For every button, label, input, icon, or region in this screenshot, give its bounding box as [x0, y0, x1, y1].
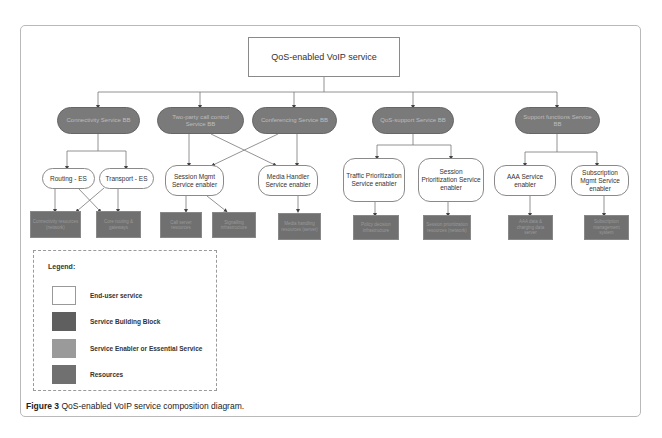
legend-swatch	[52, 339, 76, 358]
legend: Legend: End-user service Service Buildin…	[33, 250, 217, 391]
legend-item-end-user-service: End-user service	[52, 286, 142, 305]
figure-number: Figure 3	[26, 401, 59, 411]
enabler-session-mgmt: Session Mgmt Service enabler	[165, 165, 224, 196]
bb-qos-support: QoS-support Service BB	[372, 107, 454, 134]
resource-box: Subscription management system	[584, 215, 629, 240]
resource-box: Core routing & gateways	[96, 211, 141, 238]
legend-swatch	[52, 312, 76, 331]
enabler-routing: Routing - ES	[42, 168, 95, 189]
root-service-box: QoS-enabled VoIP service	[248, 37, 400, 77]
enabler-media-handler: Media Handler Service enabler	[258, 165, 318, 196]
resource-box: Call server resources	[160, 212, 202, 238]
enabler-aaa: AAA Service enabler	[494, 165, 556, 196]
legend-swatch	[52, 286, 76, 305]
resource-box: Session prioritization resources (networ…	[423, 215, 471, 240]
caption-text: QoS-enabled VoIP service composition dia…	[59, 401, 244, 411]
resource-box: Signalling infrastructure	[212, 212, 256, 238]
enabler-session-prioritization: Session Prioritization Service enabler	[418, 158, 484, 202]
resource-box: Policy decision infrastructure	[353, 215, 399, 240]
bb-connectivity: Connectivity Service BB	[57, 107, 140, 134]
resource-box: Media handling resources (server)	[278, 213, 321, 240]
bb-two-party-call-control: Two-party call control Service BB	[157, 107, 244, 134]
bb-conferencing: Conferencing Service BB	[252, 107, 337, 134]
legend-item-service-building-block: Service Building Block	[52, 312, 160, 331]
resource-box: AAA data & charging data server	[508, 215, 553, 240]
legend-item-resources: Resources	[52, 365, 123, 384]
enabler-transport: Transport - ES	[99, 168, 154, 189]
resource-box: Connectivity resources (network)	[30, 211, 81, 238]
legend-title: Legend:	[48, 263, 75, 270]
enabler-traffic-prioritization: Traffic Prioritization Service enabler	[343, 158, 405, 202]
root-service-label: QoS-enabled VoIP service	[271, 52, 376, 62]
bb-support-functions: Support functions Service BB	[515, 107, 600, 134]
figure-caption: Figure 3 QoS-enabled VoIP service compos…	[26, 401, 244, 411]
legend-swatch	[52, 365, 76, 384]
enabler-subscription-mgmt: Subscription Mgmt Service enabler	[571, 165, 629, 196]
legend-item-service-enabler: Service Enabler or Essential Service	[52, 339, 202, 358]
